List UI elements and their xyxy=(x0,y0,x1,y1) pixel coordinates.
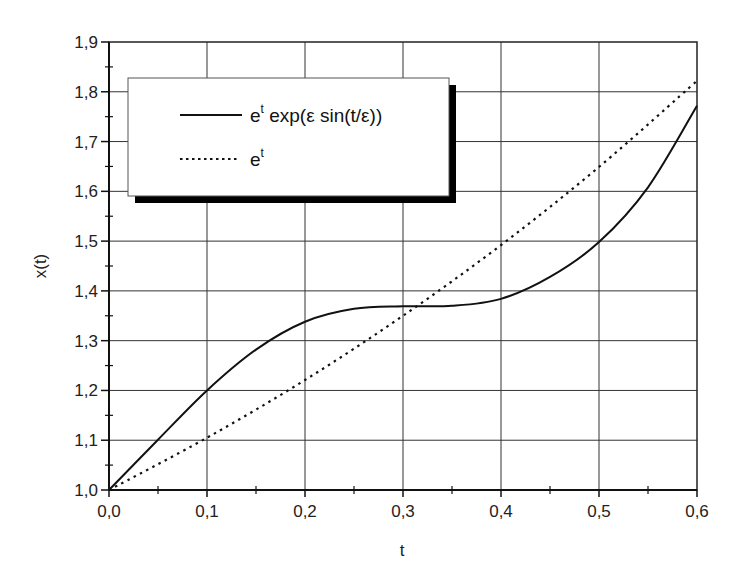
legend: et exp(ε sin(t/ε)) et xyxy=(128,78,456,203)
x-tick-label: 0,3 xyxy=(391,502,415,521)
chart: 0,00,10,20,30,40,50,61,01,11,21,31,41,51… xyxy=(0,0,738,585)
x-tick-label: 0,0 xyxy=(97,502,121,521)
y-tick-label: 1,5 xyxy=(74,232,98,251)
x-axis-label: t xyxy=(400,541,405,560)
x-tick-label: 0,5 xyxy=(587,502,611,521)
legend-box xyxy=(128,78,449,196)
y-axis-label: x(t) xyxy=(31,254,50,279)
y-tick-label: 1,9 xyxy=(74,33,98,52)
x-tick-label: 0,4 xyxy=(489,502,513,521)
x-tick-label: 0,1 xyxy=(195,502,219,521)
legend-label-1: et exp(ε sin(t/ε)) xyxy=(250,102,382,126)
y-tick-label: 1,6 xyxy=(74,182,98,201)
y-tick-label: 1,2 xyxy=(74,381,98,400)
y-tick-label: 1,8 xyxy=(74,83,98,102)
y-tick-label: 1,1 xyxy=(74,431,98,450)
y-tick-label: 1,7 xyxy=(74,133,98,152)
x-tick-label: 0,2 xyxy=(293,502,317,521)
y-tick-label: 1,0 xyxy=(74,481,98,500)
y-tick-label: 1,3 xyxy=(74,332,98,351)
y-tick-label: 1,4 xyxy=(74,282,98,301)
x-tick-label: 0,6 xyxy=(685,502,709,521)
